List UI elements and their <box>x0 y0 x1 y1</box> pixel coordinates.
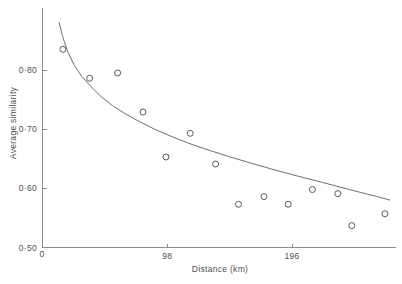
data-point-marker <box>261 194 267 200</box>
y-tick-label: 0·60 <box>3 183 37 193</box>
data-point-group <box>60 46 388 228</box>
y-tick-marks <box>43 70 47 188</box>
data-point-marker <box>187 130 193 136</box>
axes-group <box>43 8 397 248</box>
data-point-marker <box>213 161 219 167</box>
data-point-marker <box>115 70 121 76</box>
x-axis-title: Distance (km) <box>155 264 285 274</box>
data-point-marker <box>87 75 93 81</box>
data-point-marker <box>140 109 146 115</box>
chart-figure: 0·500·600·700·80 98196 0 Average similar… <box>0 0 402 284</box>
data-point-marker <box>236 201 242 207</box>
x-tick-label: 98 <box>150 251 184 261</box>
data-point-marker <box>285 201 291 207</box>
plot-area <box>0 0 402 284</box>
data-point-marker <box>335 191 341 197</box>
fitted-curve <box>59 22 390 200</box>
origin-tick-label: 0 <box>30 249 54 259</box>
x-tick-label: 196 <box>275 251 309 261</box>
data-point-marker <box>349 223 355 229</box>
data-point-marker <box>163 154 169 160</box>
x-tick-marks <box>167 244 292 248</box>
data-point-marker <box>309 187 315 193</box>
y-axis-title: Average similarity <box>8 63 18 183</box>
data-point-marker <box>382 211 388 217</box>
data-point-marker <box>60 46 66 52</box>
